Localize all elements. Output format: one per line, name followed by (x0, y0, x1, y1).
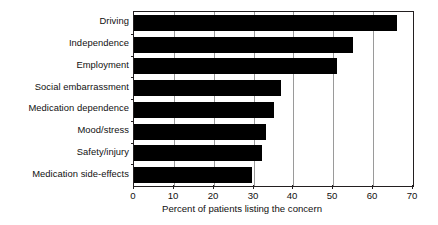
x-axis-tick (372, 185, 373, 189)
x-axis-tick-label: 50 (317, 190, 347, 201)
category-label: Driving (0, 16, 129, 26)
category-label: Safety/injury (0, 147, 129, 157)
category-axis-tick (131, 99, 134, 100)
x-axis-tick (412, 185, 413, 189)
x-axis-tick (173, 185, 174, 189)
category-label: Social embarrassment (0, 82, 129, 92)
x-axis-tick (332, 185, 333, 189)
x-axis-tick-label: 10 (158, 190, 188, 201)
x-axis-tick-label: 30 (238, 190, 268, 201)
category-axis-tick (131, 143, 134, 144)
x-axis-tick (292, 185, 293, 189)
x-axis-tick-label: 40 (277, 190, 307, 201)
category-label: Employment (0, 60, 129, 70)
bar-chart-figure: DrivingIndependenceEmploymentSocial emba… (0, 0, 438, 225)
x-axis-tick (133, 185, 134, 189)
category-label: Independence (0, 38, 129, 48)
bar (134, 37, 353, 53)
category-label: Medication dependence (0, 103, 129, 113)
category-axis: DrivingIndependenceEmploymentSocial emba… (0, 11, 129, 185)
bar (134, 124, 266, 140)
bar (134, 167, 252, 183)
plot-area (133, 11, 414, 187)
category-axis-tick (131, 34, 134, 35)
category-label: Medication side-effects (0, 169, 129, 179)
bar (134, 145, 262, 161)
x-axis-title: Percent of patients listing the concern (0, 203, 438, 214)
x-axis-tick-label: 20 (198, 190, 228, 201)
x-axis-tick (253, 185, 254, 189)
bar (134, 15, 397, 31)
x-axis-tick-label: 60 (357, 190, 387, 201)
category-axis-tick (131, 56, 134, 57)
bar (134, 58, 337, 74)
category-label: Mood/stress (0, 125, 129, 135)
x-axis-tick-label: 70 (397, 190, 427, 201)
bar-series (134, 12, 413, 186)
category-axis-tick (131, 164, 134, 165)
x-axis-tick (213, 185, 214, 189)
bar (134, 102, 274, 118)
category-axis-tick (131, 77, 134, 78)
category-axis-tick (131, 121, 134, 122)
bar (134, 80, 281, 96)
x-axis-tick-label: 0 (118, 190, 148, 201)
